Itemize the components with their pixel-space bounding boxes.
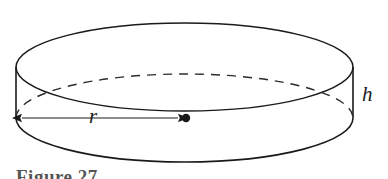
cylinder-diagram xyxy=(0,0,388,179)
radius-label: r xyxy=(89,106,97,127)
figure-canvas: r h Figure 27 xyxy=(0,0,388,179)
bottom-front-arc xyxy=(16,118,353,162)
center-point-dot xyxy=(182,114,190,122)
figure-caption: Figure 27 xyxy=(16,170,98,179)
top-face-ellipse xyxy=(16,23,353,111)
figure-caption-clip: Figure 27 xyxy=(0,170,388,179)
height-label: h xyxy=(362,84,373,105)
